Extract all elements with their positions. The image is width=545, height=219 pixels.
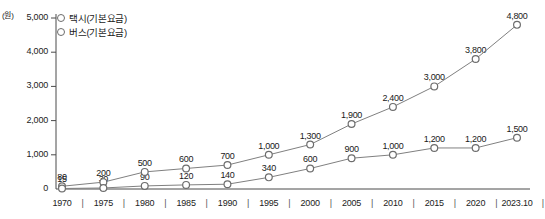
data-point-marker[interactable] (472, 56, 479, 63)
data-point-marker[interactable] (390, 151, 397, 158)
data-point-marker[interactable] (431, 83, 438, 90)
data-point-marker[interactable] (224, 181, 231, 188)
series-line-bus (62, 138, 517, 189)
line-chart: (원) 택시(기본요금) 버스(기본요금) 01,0002,0003,0004,… (0, 0, 545, 219)
data-point-marker[interactable] (514, 21, 521, 28)
series-line-taxi (62, 25, 517, 186)
data-point-marker[interactable] (224, 162, 231, 169)
data-point-marker[interactable] (390, 104, 397, 111)
data-point-marker[interactable] (348, 155, 355, 162)
data-point-marker[interactable] (514, 134, 521, 141)
data-point-marker[interactable] (141, 183, 148, 190)
data-point-marker[interactable] (472, 145, 479, 152)
data-point-marker[interactable] (183, 165, 190, 172)
data-point-marker[interactable] (307, 165, 314, 172)
data-point-marker[interactable] (183, 181, 190, 188)
plot-area (0, 0, 545, 219)
data-point-marker[interactable] (431, 145, 438, 152)
data-point-marker[interactable] (100, 185, 107, 192)
data-point-marker[interactable] (348, 121, 355, 128)
data-point-marker[interactable] (265, 174, 272, 181)
data-point-marker[interactable] (265, 151, 272, 158)
data-point-marker[interactable] (59, 185, 66, 192)
data-point-marker[interactable] (141, 169, 148, 176)
data-point-marker[interactable] (307, 141, 314, 148)
